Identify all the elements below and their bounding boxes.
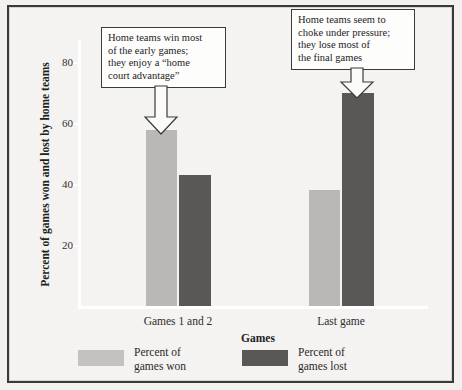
y-tick-label-60: 60 [62, 118, 73, 129]
x-category-label-games-1-and-2: Games 1 and 2 [144, 316, 213, 328]
bar-games-1-and-2-lost [179, 175, 211, 306]
x-axis-line [78, 306, 428, 309]
y-tick-label-80: 80 [62, 57, 73, 68]
bar-last-game-lost [342, 93, 374, 306]
callout-early-games-line-1: Home teams win most [108, 32, 219, 45]
x-axis-title: Games [241, 332, 275, 344]
y-axis-title: Percent of games won and lost by home te… [36, 40, 54, 309]
y-tick-label-40: 40 [62, 179, 73, 190]
callout-final-games-line-1: Home teams seem to [298, 14, 408, 27]
legend-label-lost-line-1: Percent of [298, 346, 347, 360]
callout-early-games-arrow [143, 86, 179, 136]
bar-last-game-won [309, 190, 340, 306]
callout-early-games: Home teams win most of the early games; … [101, 27, 226, 88]
bar-games-1-and-2-won [146, 130, 177, 306]
chart-screenshot: Percent of games won and lost by home te… [0, 0, 462, 390]
callout-final-games-line-3: they lose most of [298, 39, 408, 52]
legend-label-lost: Percent of games lost [298, 346, 347, 373]
legend-label-lost-line-2: games lost [298, 360, 347, 374]
chart-legend: Percent of games won Percent of games lo… [78, 347, 378, 377]
legend-swatch-lost [242, 350, 288, 366]
callout-early-games-line-4: court advantage” [108, 70, 219, 83]
x-category-label-last-game: Last game [317, 316, 365, 328]
legend-swatch-won [78, 350, 124, 366]
callout-final-games: Home teams seem to choke under pressure;… [291, 9, 415, 70]
callout-early-games-line-2: of the early games; [108, 45, 219, 58]
legend-label-won-line-1: Percent of [134, 346, 186, 360]
y-tick-label-20: 20 [62, 240, 73, 251]
callout-early-games-line-3: they enjoy a “home [108, 57, 219, 70]
callout-final-games-line-2: choke under pressure; [298, 27, 408, 40]
y-axis-line [78, 40, 81, 309]
callout-final-games-line-4: the final games [298, 52, 408, 65]
legend-label-won: Percent of games won [134, 346, 186, 373]
callout-final-games-arrow [339, 68, 375, 100]
legend-label-won-line-2: games won [134, 360, 186, 374]
